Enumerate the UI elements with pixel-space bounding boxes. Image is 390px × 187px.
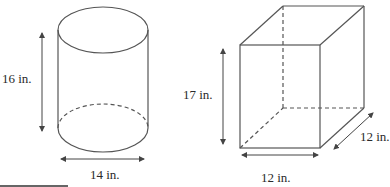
cylinder-height-label: 16 in. [2, 72, 32, 85]
box-height-label: 17 in. [183, 88, 213, 101]
box-width-label: 12 in. [261, 171, 291, 184]
cylinder-bottom-back-arc [58, 104, 148, 128]
box-shape [240, 6, 364, 148]
cylinder-shape [58, 7, 148, 152]
box-top-left-edge [240, 6, 283, 45]
box-depth-label: 12 in. [360, 130, 390, 143]
box-front-face [240, 45, 320, 148]
cylinder-diameter-label: 14 in. [90, 168, 120, 181]
box-hidden-edges [240, 6, 364, 148]
cylinder-top-ellipse [58, 7, 148, 53]
figure-stage: 16 in. 14 in. 17 in. 12 in. 12 in. [0, 0, 390, 187]
box-top-right-edge [320, 6, 364, 45]
cylinder-bottom-front-arc [58, 128, 148, 152]
